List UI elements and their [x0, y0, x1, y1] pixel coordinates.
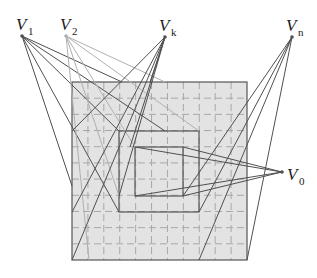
viewpoint-subscript-v0: 0: [299, 175, 305, 187]
ray-v1: [22, 36, 122, 82]
viewpoint-marker-v2: [64, 34, 68, 38]
viewpoint-subscript-vk: k: [171, 26, 177, 38]
viewpoint-marker-vn: [290, 35, 294, 39]
viewpoint-subscript-v2: 2: [72, 25, 78, 37]
ray-vk: [150, 37, 165, 82]
ray-v1: [22, 36, 72, 186]
viewpoint-marker-v0: [280, 170, 284, 174]
viewpoint-subscript-v1: 1: [28, 25, 34, 37]
viewpoint-subscript-vn: n: [298, 26, 304, 38]
viewpoint-marker-v1: [20, 34, 24, 38]
viewpoint-marker-vk: [163, 35, 167, 39]
diagram-canvas: V1V2VkVnV0: [0, 0, 317, 278]
projection-diagram: V1V2VkVnV0: [0, 0, 317, 278]
